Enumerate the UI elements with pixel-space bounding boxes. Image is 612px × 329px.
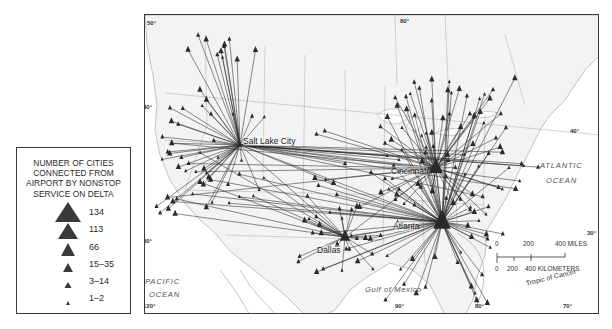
hub-label-salt-lake-city: Salt Lake City	[243, 136, 295, 146]
lon-70-label: 70°	[563, 303, 572, 309]
airport-marker-icon	[513, 185, 518, 191]
airport-marker-icon	[501, 231, 505, 236]
lat-30-right-label: 30°	[587, 230, 596, 236]
hub-label-cincinnati: Cincinnati	[391, 166, 428, 176]
atlantic-ocean-label-2: OCEAN	[546, 176, 577, 185]
legend-title-line: NUMBER OF CITIES	[17, 158, 130, 168]
legend-title-line: AIRPORT BY NONSTOP	[17, 178, 130, 188]
atlantic-ocean-label-1: ATLANTIC	[540, 161, 583, 170]
lon-90-label: 90°	[395, 303, 404, 309]
map-frame: ATLANTIC OCEAN PACIFIC OCEAN Gulf of Mex…	[144, 14, 599, 314]
legend-row-3-14: 3–14	[17, 275, 130, 291]
scale-km-200: 200	[507, 265, 518, 272]
legend-label: 15–35	[89, 259, 114, 269]
legend: NUMBER OF CITIES CONNECTED FROM AIRPORT …	[16, 147, 131, 314]
scale-bar	[497, 253, 565, 263]
airport-marker-icon	[172, 210, 177, 216]
airport-marker-icon	[518, 179, 521, 183]
scale-km-0: 0	[495, 265, 499, 272]
legend-row-66: 66	[17, 241, 130, 257]
scale-miles-0: 0	[495, 240, 499, 247]
triangle-marker-icon	[54, 290, 82, 310]
scale-miles-200: 200	[523, 240, 534, 247]
hub-label-atlanta: Atlanta	[393, 221, 419, 231]
airport-marker-icon	[474, 296, 479, 302]
legend-label: 66	[89, 242, 99, 252]
legend-row-15-35: 15–35	[17, 258, 130, 274]
legend-title: NUMBER OF CITIES CONNECTED FROM AIRPORT …	[17, 158, 130, 199]
legend-title-line: CONNECTED FROM	[17, 168, 130, 178]
legend-row-134: 134	[17, 206, 130, 222]
legend-label: 134	[89, 207, 104, 217]
legend-row-1-2: 1–2	[17, 292, 130, 308]
legend-label: 1–2	[89, 293, 104, 303]
lon-80-label: 80°	[475, 303, 484, 309]
lat-40-right-label: 40°	[570, 128, 579, 134]
lon-120-label: 120°	[144, 303, 155, 309]
triangle-marker-icon	[54, 221, 82, 241]
lat-50-label: 50°	[147, 20, 156, 26]
legend-label: 113	[89, 224, 103, 234]
scale-km-400: 400 KILOMETERS	[525, 265, 580, 272]
lat-30-label: 30°	[144, 238, 152, 244]
legend-title-line: SERVICE ON DELTA	[17, 189, 130, 199]
hub-label-dallas: Dallas	[317, 245, 341, 255]
airport-marker-icon	[158, 210, 162, 215]
lon-80-top-label: 80°	[400, 18, 409, 24]
legend-row-113: 113	[17, 223, 130, 239]
airport-marker-icon	[165, 194, 170, 200]
pacific-ocean-label-1: PACIFIC	[145, 277, 180, 286]
gulf-of-mexico-label: Gulf of Mexico	[365, 285, 422, 294]
lat-40-label: 40°	[144, 104, 152, 110]
pacific-ocean-label-2: OCEAN	[149, 290, 180, 299]
scale-miles-400: 400 MILES	[555, 240, 587, 247]
airport-marker-icon	[423, 284, 427, 289]
legend-label: 3–14	[89, 276, 109, 286]
triangle-marker-icon	[54, 202, 82, 222]
airport-marker-icon	[399, 267, 402, 271]
